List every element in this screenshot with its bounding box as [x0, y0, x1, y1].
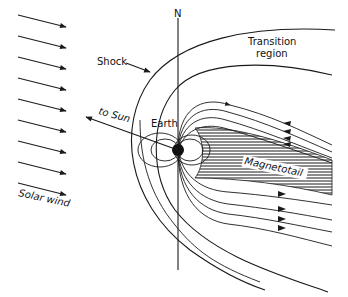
transition-label-1: Transition: [247, 36, 296, 47]
earth-label: Earth: [151, 118, 178, 129]
magnetosphere-diagram: N Transition region Shock to Sun Earth M…: [0, 0, 348, 297]
transition-label-2: region: [256, 48, 288, 59]
shock-label: Shock: [97, 56, 127, 67]
north-label: N: [174, 8, 181, 19]
shock-pointer: [126, 63, 150, 72]
solar-wind-label: Solar wind: [18, 187, 72, 209]
to-sun-label: to Sun: [97, 105, 131, 124]
solar-wind-arrows: [18, 15, 66, 195]
